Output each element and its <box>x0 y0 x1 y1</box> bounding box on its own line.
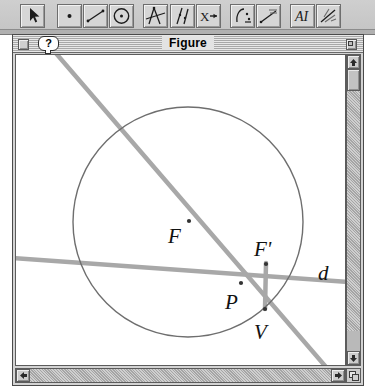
point-P[interactable] <box>239 281 243 285</box>
tool-button-text[interactable]: AI <box>290 4 315 28</box>
tool-button-transform[interactable] <box>230 4 255 28</box>
label-F[interactable]: F <box>167 224 181 248</box>
circle-icon <box>110 5 133 27</box>
secant-FV[interactable] <box>54 55 326 365</box>
geometry-drawing: FF'PVd <box>16 55 345 365</box>
svg-text:X: X <box>200 9 210 24</box>
tool-button-animate[interactable] <box>256 4 281 28</box>
tool-button-circle[interactable] <box>109 4 134 28</box>
tool-button-custom[interactable] <box>316 4 341 28</box>
geometry-toolbar: X <box>0 0 375 33</box>
svg-text:AI: AI <box>294 9 310 24</box>
label-d[interactable]: d <box>318 261 329 285</box>
vertical-scroll-thumb[interactable] <box>347 69 360 91</box>
text-A-icon: AI <box>291 5 314 27</box>
window-title-text: Figure <box>162 36 214 50</box>
x-calc-icon: X <box>197 5 220 27</box>
window-grow-box-icon[interactable] <box>346 368 361 383</box>
tool-button-measure[interactable] <box>170 4 195 28</box>
label-V[interactable]: V <box>254 320 269 344</box>
window-titlebar[interactable]: ? Figure <box>13 35 363 53</box>
application-window: X <box>0 0 375 392</box>
horizontal-scroll-track[interactable] <box>30 369 331 382</box>
segment-F-prime-V[interactable] <box>265 263 266 309</box>
horizontal-scrollbar[interactable] <box>15 368 346 383</box>
scroll-down-arrow-icon[interactable] <box>347 351 360 365</box>
label-P[interactable]: P <box>224 290 238 314</box>
window-title: Figure <box>13 36 363 50</box>
figure-window: ? Figure FF'PVd <box>12 34 364 386</box>
vertical-scroll-track[interactable] <box>347 91 360 331</box>
point-V[interactable] <box>263 307 267 311</box>
segment-icon <box>84 5 107 27</box>
scroll-right-arrow-icon[interactable] <box>331 369 345 382</box>
tool-button-segment[interactable] <box>83 4 108 28</box>
tool-button-construct[interactable] <box>143 4 168 28</box>
scroll-left-arrow-icon[interactable] <box>16 369 30 382</box>
zoom-box-icon[interactable] <box>346 39 357 50</box>
vertical-scrollbar[interactable] <box>346 54 361 366</box>
point-icon <box>58 5 81 27</box>
label-Fp[interactable]: F' <box>253 237 272 261</box>
custom-tool-icon <box>317 5 340 27</box>
tool-button-calculate[interactable]: X <box>196 4 221 28</box>
transform-icon <box>231 5 254 27</box>
compass-icon <box>144 5 167 27</box>
scroll-up-arrow-icon[interactable] <box>347 55 360 69</box>
grow-box-square-front <box>352 374 359 381</box>
figure-canvas[interactable]: FF'PVd <box>15 54 346 366</box>
tool-button-point[interactable] <box>57 4 82 28</box>
point-F[interactable] <box>187 219 191 223</box>
arrow-cursor-icon <box>21 5 44 27</box>
point-Fp[interactable] <box>264 262 268 266</box>
tool-button-arrow[interactable] <box>20 4 45 28</box>
measure-icon <box>171 5 194 27</box>
animate-icon <box>257 5 280 27</box>
